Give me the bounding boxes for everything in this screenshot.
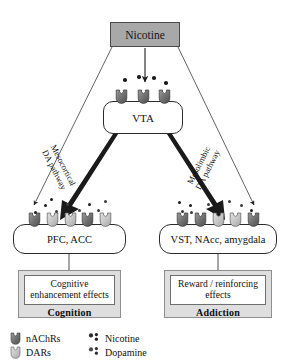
nachr-receptor-icon (81, 212, 94, 227)
dar-receptor-icon (64, 212, 77, 227)
legend-label-dopamine: Dopamine (105, 347, 147, 358)
cortical-region: PFC, ACC (13, 224, 126, 254)
limbic-region: VST, NAcc, amygdala (159, 224, 277, 254)
nicotine-dot (137, 75, 141, 79)
nicotine-source-box: Nicotine (110, 22, 180, 47)
legend-item-dars: DARs (10, 346, 88, 359)
addiction-effect-line1: Reward / reinforcing (178, 278, 258, 289)
addiction-caption: Addiction (170, 307, 266, 318)
dar-receptor-icon (229, 212, 242, 227)
nachr-receptor-icon (247, 212, 260, 227)
cortical-region-label: PFC, ACC (47, 234, 92, 245)
legend-item-dopamine: Dopamine (88, 346, 147, 358)
diagram-canvas: Nicotine VTA Mesocortical DA pathway Mes… (0, 0, 285, 364)
legend-label-nachrs: nAChRs (26, 333, 60, 344)
cognition-effect-text: Cognitive enhancement effects (24, 275, 115, 305)
cognition-effect-line1: Cognitive (51, 278, 89, 289)
cognition-caption: Cognition (24, 307, 115, 318)
receptor-dark-icon (10, 332, 21, 345)
addiction-effect-text: Reward / reinforcing effects (170, 275, 266, 305)
nachr-receptor-icon (28, 212, 41, 227)
legend-label-nicotine: Nicotine (105, 333, 139, 344)
nachr-receptor-icon (115, 89, 128, 104)
nicotine-dot (123, 78, 127, 82)
receptor-light-icon (10, 346, 21, 359)
cognition-effect-line2: enhancement effects (30, 289, 108, 300)
dar-receptor-icon (212, 212, 225, 227)
dar-receptor-icon (99, 212, 112, 227)
vta-receptor-row (115, 89, 171, 104)
vta-label: VTA (132, 112, 154, 124)
legend-item-nicotine: Nicotine (88, 332, 139, 344)
legend-row: nAChRs Nicotine (10, 331, 210, 345)
dots-gray-icon (88, 346, 100, 358)
nicotine-label: Nicotine (125, 29, 165, 41)
limbic-region-label: VST, NAcc, amygdala (171, 234, 266, 245)
legend-row: DARs Dopamine (10, 345, 210, 359)
addiction-outcome-box: Reward / reinforcing effects Addiction (164, 270, 272, 318)
nachr-receptor-icon (176, 212, 189, 227)
vta-region: VTA (103, 101, 183, 134)
cognition-outcome-box: Cognitive enhancement effects Cognition (18, 270, 121, 318)
dots-dark-icon (88, 332, 100, 344)
dar-receptor-icon (46, 212, 59, 227)
limbic-receptor-row (176, 212, 260, 227)
legend-label-dars: DARs (26, 347, 51, 358)
nachr-receptor-icon (158, 89, 171, 104)
cortical-receptor-row (28, 212, 112, 227)
nachr-receptor-icon (194, 212, 207, 227)
nicotine-dot (152, 76, 156, 80)
nicotine-dot (164, 81, 168, 85)
nachr-receptor-icon (137, 89, 150, 104)
legend: nAChRs Nicotine DARs (10, 331, 210, 359)
legend-item-nachrs: nAChRs (10, 332, 88, 345)
addiction-effect-line2: effects (205, 289, 230, 300)
